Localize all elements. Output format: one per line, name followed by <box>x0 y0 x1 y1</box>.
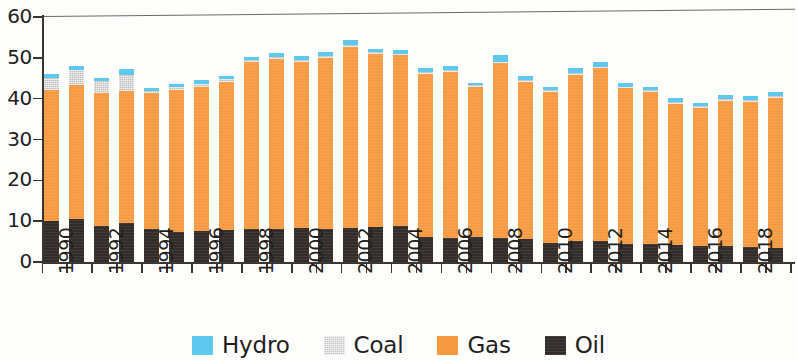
x-axis-tick-label: 1994 <box>157 228 176 274</box>
bar-segment-gas <box>194 87 209 230</box>
hydro-swatch-icon <box>192 336 213 355</box>
bar-segment-gas <box>69 85 84 219</box>
legend-label: Coal <box>354 334 404 357</box>
x-axis-tick <box>590 264 592 273</box>
bar-segment-gas <box>119 91 134 222</box>
y-axis-tick-label: 60 <box>2 6 32 26</box>
x-axis-tick <box>541 264 543 273</box>
bar-segment-gas <box>518 82 533 240</box>
y-axis-tick-label: 10 <box>2 210 32 230</box>
x-axis-tick-label: 1992 <box>107 228 126 274</box>
x-axis-tick <box>141 264 143 273</box>
plot-area <box>43 16 790 263</box>
bar-segment-gas <box>418 74 433 237</box>
bar-segment-gas <box>543 92 558 243</box>
chart-legend: HydroCoalGasOil <box>0 331 797 360</box>
bar-segment-gas <box>343 47 358 228</box>
bar-segment-gas <box>568 75 583 242</box>
legend-item-coal[interactable]: Coal <box>324 334 404 357</box>
bar-segment-gas <box>269 59 284 229</box>
legend-item-hydro[interactable]: Hydro <box>192 334 290 357</box>
bar-segment-gas <box>643 92 658 244</box>
bar-segment-coal <box>44 78 59 91</box>
x-axis-tick <box>291 264 293 273</box>
bar-segment-gas <box>443 72 458 238</box>
x-axis-tick <box>91 264 93 273</box>
legend-label: Oil <box>575 334 605 357</box>
x-axis-tick <box>491 264 493 273</box>
x-axis-tick <box>640 264 642 273</box>
y-axis-tick-label: 30 <box>2 129 32 149</box>
coal-swatch-icon <box>324 336 345 355</box>
oil-swatch-icon <box>545 336 566 355</box>
bar-segment-gas <box>668 104 683 246</box>
legend-label: Hydro <box>222 334 290 357</box>
bar-segment-gas <box>768 98 783 248</box>
x-axis-tick <box>391 264 393 273</box>
x-axis-tick <box>740 264 742 273</box>
bar-segment-gas <box>593 68 608 241</box>
x-axis-tick <box>341 264 343 273</box>
bar-segment-gas <box>618 88 633 244</box>
bar-segment-gas <box>318 58 333 229</box>
bar-segment-gas <box>219 82 234 229</box>
x-axis-tick-label: 2004 <box>406 228 425 274</box>
bar-segment-coal <box>94 81 109 93</box>
legend-item-oil[interactable]: Oil <box>545 334 605 357</box>
x-axis-tick-label: 2010 <box>556 228 575 274</box>
x-axis-tick-label: 1998 <box>257 228 276 274</box>
bar-segment-gas <box>468 87 483 236</box>
bar-segment-gas <box>144 93 159 229</box>
bar-segment-coal <box>69 70 84 85</box>
stacked-bar-chart: 6050403020100 19901992199419961998200020… <box>0 0 797 360</box>
x-axis-tick-label: 1996 <box>207 228 226 274</box>
legend-item-gas[interactable]: Gas <box>437 334 510 357</box>
bar-segment-gas <box>169 90 184 232</box>
x-axis-tick-label: 2006 <box>456 228 475 274</box>
x-axis-tick-label: 2008 <box>506 228 525 274</box>
gas-swatch-icon <box>437 336 458 355</box>
bar-segment-gas <box>294 62 309 229</box>
x-axis-tick <box>241 264 243 273</box>
y-axis-tick-label: 40 <box>2 88 32 108</box>
x-axis-tick <box>790 264 792 273</box>
x-axis-tick <box>42 264 44 273</box>
x-axis-tick <box>191 264 193 273</box>
bar-segment-gas <box>718 101 733 247</box>
y-axis-tick-label: 20 <box>2 169 32 189</box>
bar-segment-gas <box>743 102 758 247</box>
x-axis-tick-label: 2012 <box>606 228 625 274</box>
bar-segment-gas <box>244 62 259 229</box>
y-axis-tick-label: 50 <box>2 47 32 67</box>
x-axis-tick-label: 1990 <box>57 228 76 274</box>
x-axis-tick-label: 2000 <box>307 228 326 274</box>
bar-segment-gas <box>693 108 708 246</box>
x-axis-tick-label: 2016 <box>706 228 725 274</box>
y-axis-labels: 6050403020100 <box>0 0 32 360</box>
bar-segment-gas <box>393 55 408 226</box>
x-axis-tick-label: 2014 <box>656 228 675 274</box>
x-axis-tick-label: 2002 <box>356 228 375 274</box>
bar-segment-gas <box>493 63 508 238</box>
x-axis-tick-label: 2018 <box>756 228 775 274</box>
bar-segment-gas <box>94 93 109 227</box>
bar-segment-coal <box>119 75 134 91</box>
bar-segment-gas <box>368 54 383 227</box>
x-axis-tick <box>690 264 692 273</box>
legend-label: Gas <box>467 334 510 357</box>
y-axis-tick-label: 0 <box>2 251 32 271</box>
bar-segment-gas <box>44 90 59 221</box>
x-axis-tick <box>441 264 443 273</box>
